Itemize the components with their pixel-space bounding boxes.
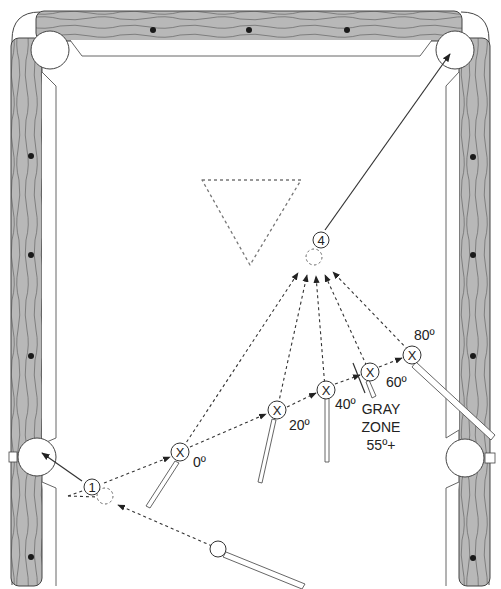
billiards-shot-diagram: 4 1 X X X X X 0º 20º 40º 60º 80º [0, 0, 501, 589]
top-rail [36, 11, 462, 41]
svg-text:X: X [273, 403, 282, 418]
svg-text:GRAY: GRAY [362, 401, 401, 417]
svg-text:X: X [366, 365, 375, 380]
svg-text:X: X [176, 445, 185, 460]
diamond-icon [470, 154, 476, 160]
ball-4-path [325, 54, 450, 230]
svg-text:4: 4 [317, 233, 324, 248]
corner-pocket-top-right [436, 31, 474, 69]
side-pocket-right [446, 439, 484, 477]
diamond-icon [28, 353, 34, 359]
angle-label-80: 80º [414, 327, 435, 343]
diamond-icon [470, 252, 476, 258]
rack-outline [202, 180, 301, 265]
diamond-icon [28, 252, 34, 258]
x-marker-80deg: X [403, 346, 421, 364]
svg-text:X: X [408, 348, 417, 363]
side-pocket-left [18, 438, 56, 476]
x-marker-0deg: X [171, 443, 189, 461]
x-marker-40deg: X [317, 381, 335, 399]
cue-ball-path [68, 358, 402, 497]
diamond-icon [470, 555, 476, 561]
table-frame [9, 11, 495, 586]
x-marker-60deg: X [361, 363, 379, 381]
angle-label-0: 0º [193, 454, 206, 470]
diamond-icon [344, 27, 350, 33]
diamond-icon [150, 27, 156, 33]
object-ball-4: 4 [313, 232, 329, 248]
cue-ball-approach-line [118, 505, 212, 546]
corner-pocket-top-left [31, 31, 69, 69]
svg-text:ZONE: ZONE [362, 419, 401, 435]
ghost-ball-4 [306, 249, 322, 265]
angle-label-60: 60º [386, 374, 407, 390]
diamond-icon [470, 353, 476, 359]
gray-zone-label: GRAY ZONE 55º+ [362, 401, 401, 453]
cue-ball [210, 541, 226, 557]
svg-text:X: X [322, 383, 331, 398]
angle-label-20: 20º [289, 417, 310, 433]
right-rail [459, 38, 490, 586]
diamond-icon [28, 554, 34, 560]
left-rail [11, 38, 42, 586]
svg-text:55º+: 55º+ [367, 437, 396, 453]
diamond-icon [28, 153, 34, 159]
x-marker-20deg: X [268, 401, 286, 419]
svg-text:1: 1 [88, 480, 95, 495]
angle-label-40: 40º [335, 396, 356, 412]
object-ball-1: 1 [84, 479, 100, 495]
diamond-icon [246, 27, 252, 33]
